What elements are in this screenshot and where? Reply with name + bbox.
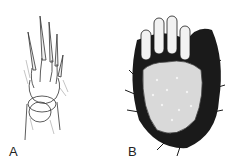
paw-a-drawing	[0, 0, 117, 167]
paw-illustration-figure: A B	[0, 0, 234, 167]
panel-b: B	[117, 0, 234, 167]
panel-a-label: A	[9, 145, 18, 158]
paw-b-drawing	[117, 0, 234, 167]
panel-b-label: B	[128, 145, 137, 158]
panel-a: A	[0, 0, 117, 167]
